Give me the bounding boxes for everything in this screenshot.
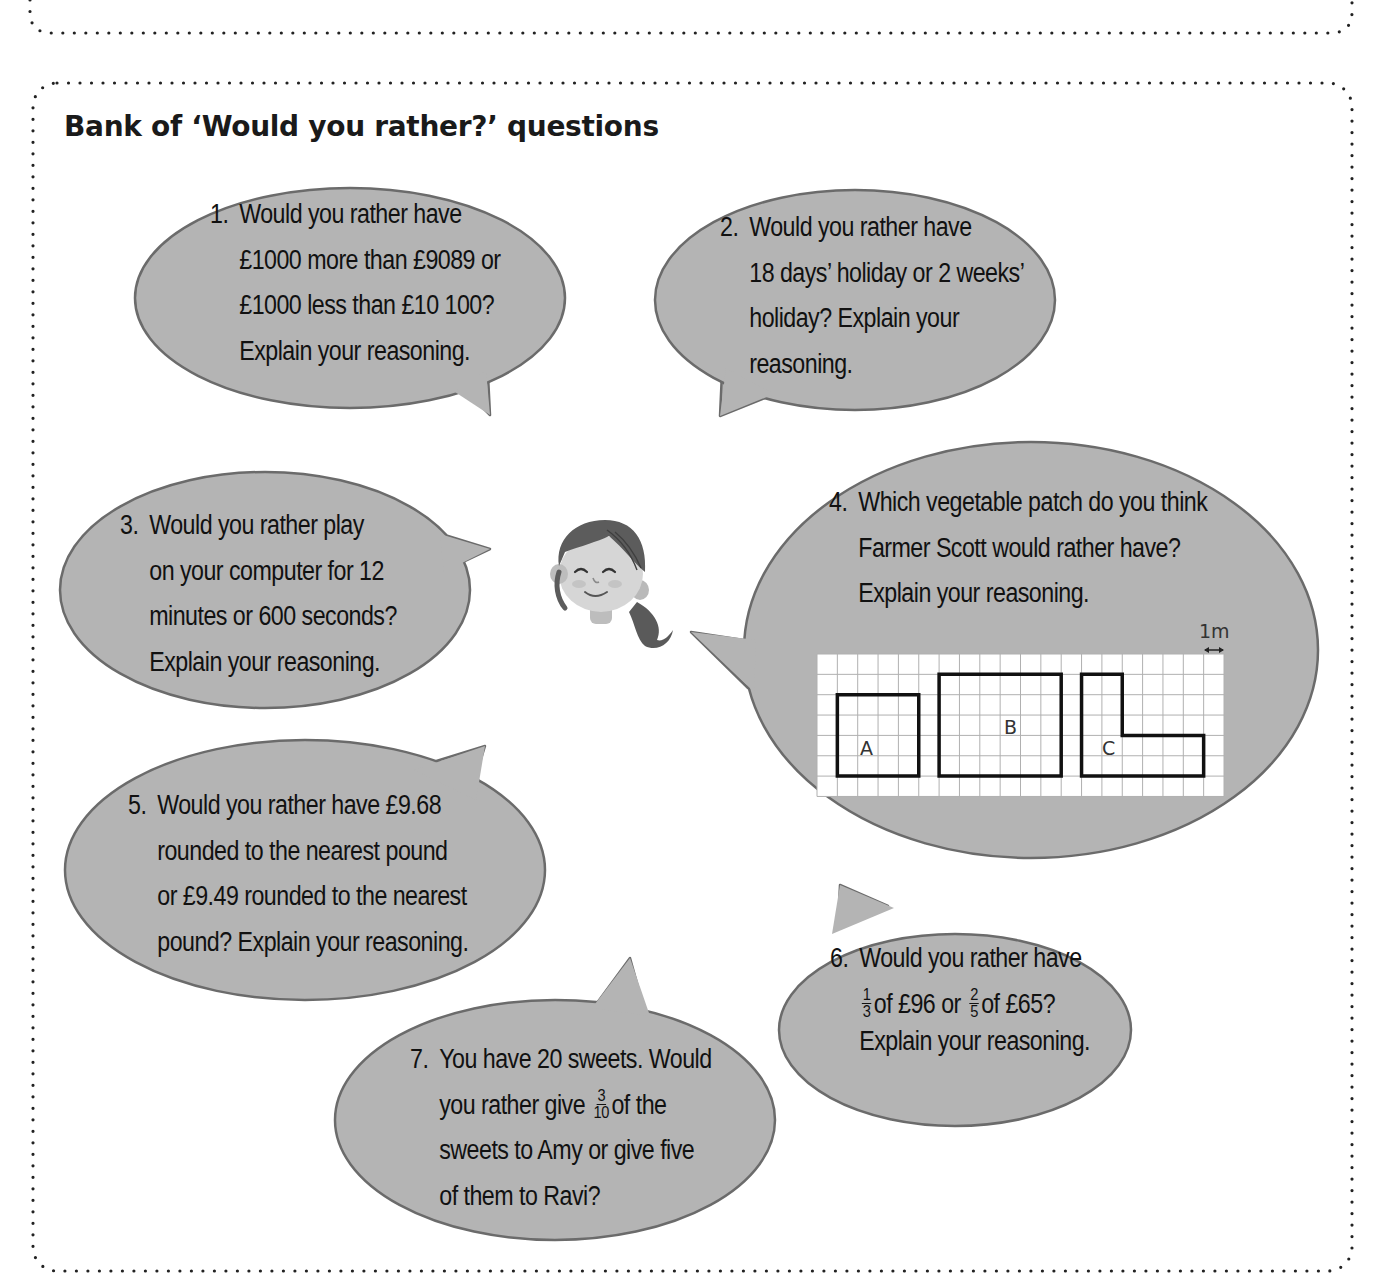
question-line: Explain your reasoning.: [120, 640, 397, 686]
fraction-denominator: 10: [594, 1105, 609, 1121]
question-3: 3.Would you rather play on your computer…: [120, 503, 397, 685]
question-line: pound? Explain your reasoning.: [128, 920, 468, 966]
question-line: you rather give 310of the: [410, 1083, 712, 1129]
worksheet-page: Bank of ‘Would you rather?’ questions 1.…: [0, 0, 1381, 1279]
question-number: 1.: [210, 192, 239, 238]
question-line: Explain your reasoning.: [829, 571, 1207, 617]
question-line: on your computer for 12: [120, 549, 397, 595]
question-line: Would you rather have: [239, 199, 461, 229]
scale-label: 1m: [1199, 620, 1230, 642]
question-1: 1.Would you rather have £1000 more than …: [210, 192, 501, 374]
question-text: you rather give: [439, 1090, 585, 1120]
question-line: rounded to the nearest pound: [128, 829, 468, 875]
shape-label-c: C: [1102, 737, 1115, 759]
question-2: 2.Would you rather have 18 days’ holiday…: [720, 205, 1024, 387]
question-text: of £65?: [981, 989, 1055, 1019]
question-line: Would you rather play: [149, 510, 364, 540]
question-line: Would you rather have £9.68: [157, 790, 441, 820]
question-number: 2.: [720, 205, 749, 251]
shape-label-a: A: [860, 737, 873, 759]
question-text: of the: [611, 1090, 666, 1120]
question-line: of them to Ravi?: [410, 1174, 712, 1220]
fraction-three-tenths: 310: [594, 1088, 609, 1121]
shape-label-b: B: [1004, 716, 1017, 738]
question-line: Would you rather have: [859, 943, 1081, 973]
question-line: sweets to Amy or give five: [410, 1128, 712, 1174]
question-line: Farmer Scott would rather have?: [829, 526, 1207, 572]
vegetable-patch-grid: [817, 654, 1224, 796]
question-text: of £96 or: [874, 989, 961, 1019]
question-6: 6.Would you rather have 13of £96 or 25of…: [830, 936, 1090, 1065]
question-5: 5.Would you rather have £9.68 rounded to…: [128, 783, 468, 965]
question-line: Would you rather have: [749, 212, 971, 242]
question-number: 5.: [128, 783, 157, 829]
question-4: 4.Which vegetable patch do you think Far…: [829, 480, 1207, 617]
fraction-one-third: 13: [862, 987, 871, 1020]
question-line: reasoning.: [720, 342, 1024, 388]
question-line: Which vegetable patch do you think: [858, 487, 1207, 517]
girl-face-icon: [550, 520, 673, 648]
question-line: holiday? Explain your: [720, 296, 1024, 342]
question-line: Explain your reasoning.: [210, 329, 501, 375]
question-7: 7.You have 20 sweets. Would you rather g…: [410, 1037, 712, 1219]
fraction-denominator: 3: [863, 1004, 871, 1020]
fraction-denominator: 5: [970, 1004, 978, 1020]
question-line: £1000 less than £10 100?: [210, 283, 501, 329]
question-line: minutes or 600 seconds?: [120, 594, 397, 640]
question-line: 18 days’ holiday or 2 weeks’: [720, 251, 1024, 297]
question-line: Explain your reasoning.: [830, 1019, 1090, 1065]
question-number: 3.: [120, 503, 149, 549]
question-number: 7.: [410, 1037, 439, 1083]
question-line: You have 20 sweets. Would: [439, 1044, 711, 1074]
section-title: Bank of ‘Would you rather?’ questions: [64, 110, 659, 143]
fraction-two-fifths: 25: [969, 987, 978, 1020]
question-line: or £9.49 rounded to the nearest: [128, 874, 468, 920]
previous-box-border: [30, 0, 1352, 33]
question-number: 6.: [830, 936, 859, 982]
question-line: £1000 more than £9089 or: [210, 238, 501, 284]
question-number: 4.: [829, 480, 858, 526]
